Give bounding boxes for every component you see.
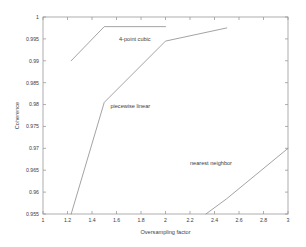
y-tick-label: 0.97 xyxy=(29,145,39,151)
y-tick-label: 1 xyxy=(36,14,39,20)
x-tick-label: 2 xyxy=(164,217,167,223)
y-tick-label: 0.985 xyxy=(26,80,39,86)
x-tick-label: 2.4 xyxy=(211,217,218,223)
annotation-nearest-neighbor: nearest neighbor xyxy=(190,160,232,166)
x-tick-label: 1.2 xyxy=(64,217,71,223)
x-tick-label: 1 xyxy=(42,217,45,223)
x-tick-label: 3 xyxy=(287,217,290,223)
y-tick-label: 0.96 xyxy=(29,189,39,195)
y-tick-label: 0.99 xyxy=(29,58,39,64)
x-tick-label: 1.6 xyxy=(113,217,120,223)
annotation-piecewise-linear: piecewise linear xyxy=(110,103,150,109)
y-axis-title: Coherence xyxy=(14,102,20,129)
y-tick-label: 0.955 xyxy=(26,211,39,217)
chart-figure: 11.21.41.61.822.22.42.62.83 0.9550.960.9… xyxy=(0,0,306,247)
y-tick-label: 0.975 xyxy=(26,123,39,129)
series-annotations: 4-point cubicpiecewise linearnearest nei… xyxy=(110,36,232,166)
x-axis-title: Oversampling factor xyxy=(140,229,190,235)
y-tick-label: 0.965 xyxy=(26,167,39,173)
x-tick-label: 1.4 xyxy=(88,217,95,223)
annotation-4-point-cubic: 4-point cubic xyxy=(119,36,151,42)
series-line-piecewise-linear xyxy=(71,28,227,214)
x-tick-label: 2.6 xyxy=(235,217,242,223)
x-tick-label: 2.2 xyxy=(186,217,193,223)
x-tick-label: 1.8 xyxy=(137,217,144,223)
y-tick-label: 0.98 xyxy=(29,101,39,107)
data-series-group xyxy=(71,27,288,214)
x-axis-tick-labels: 11.21.41.61.822.22.42.62.83 xyxy=(42,217,290,223)
x-tick-label: 2.8 xyxy=(260,217,267,223)
y-axis-tick-labels: 0.9550.960.9650.970.9750.980.9850.990.99… xyxy=(26,14,39,217)
y-tick-label: 0.995 xyxy=(26,36,39,42)
coherence-vs-oversampling-plot: 11.21.41.61.822.22.42.62.83 0.9550.960.9… xyxy=(0,0,306,247)
series-line-nearest-neighbor xyxy=(206,148,288,214)
